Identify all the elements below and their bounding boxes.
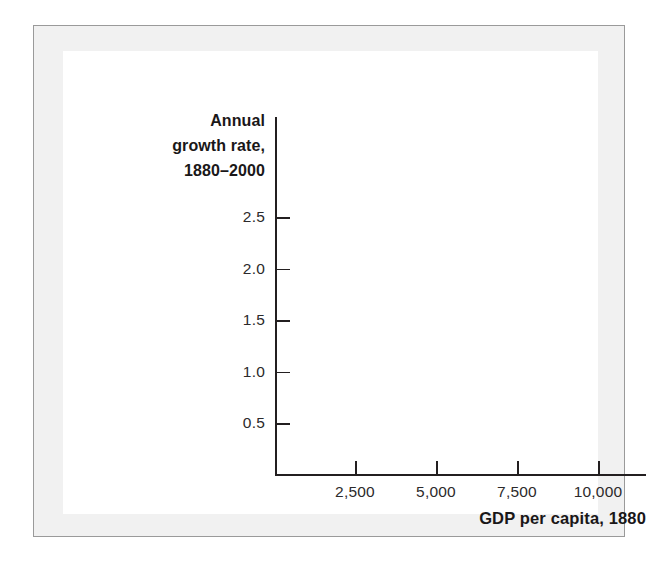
- plot-panel: 0.5 1.0 1.5 2.0 2.5 2,500 5,000 7,500 10…: [63, 51, 598, 514]
- y-tick-label-1: 1.0: [207, 363, 265, 381]
- y-tick-mark: [276, 320, 290, 322]
- x-axis-line: [275, 474, 646, 476]
- y-tick-mark: [276, 423, 290, 425]
- y-axis-title-line-2: growth rate,: [121, 133, 265, 158]
- x-tick-label-0: 2,500: [335, 483, 375, 501]
- x-tick-label-2: 7,500: [497, 483, 537, 501]
- y-axis-title-line-1: Annual: [121, 108, 265, 133]
- y-tick-label-4: 2.5: [207, 208, 265, 226]
- figure-frame: 0.5 1.0 1.5 2.0 2.5 2,500 5,000 7,500 10…: [33, 25, 625, 537]
- x-tick-mark: [355, 461, 357, 475]
- x-tick-label-1: 5,000: [416, 483, 456, 501]
- y-axis-title: Annual growth rate, 1880–2000: [121, 108, 265, 183]
- x-axis-title: GDP per capita, 1880: [306, 509, 646, 528]
- y-tick-label-0: 0.5: [207, 414, 265, 432]
- x-tick-mark: [436, 461, 438, 475]
- x-tick-mark: [517, 461, 519, 475]
- y-tick-label-2: 1.5: [207, 311, 265, 329]
- y-tick-mark: [276, 372, 290, 374]
- x-tick-label-3: 10,000: [574, 483, 623, 501]
- y-tick-mark: [276, 217, 290, 219]
- x-tick-mark: [598, 461, 600, 475]
- y-tick-label-3: 2.0: [207, 260, 265, 278]
- y-axis-title-line-3: 1880–2000: [121, 158, 265, 183]
- y-tick-mark: [276, 269, 290, 271]
